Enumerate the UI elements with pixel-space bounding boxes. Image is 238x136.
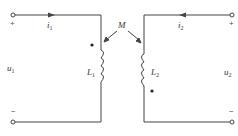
current-i1-arrow-icon bbox=[48, 13, 55, 18]
port2-plus-sign: + bbox=[229, 20, 234, 28]
current-i1-label: i1 bbox=[47, 21, 53, 31]
port1-plus-sign: + bbox=[10, 20, 15, 28]
inductor-L1-label: L1 bbox=[87, 68, 95, 78]
polarity-dot-L2 bbox=[150, 89, 153, 92]
polarity-dot-L1 bbox=[90, 43, 93, 46]
port2-minus-sign: − bbox=[229, 108, 234, 116]
terminal-1-plus bbox=[11, 13, 15, 17]
mutual-inductance-arrows bbox=[104, 31, 141, 43]
port1-minus-sign: − bbox=[11, 108, 16, 116]
coupled-inductor-diagram: + − + − i1 i2 u1 u2 M L1 L2 bbox=[0, 0, 238, 136]
current-i2-label: i2 bbox=[178, 21, 184, 31]
current-i2-arrow-icon bbox=[179, 13, 186, 18]
voltage-u1-label: u1 bbox=[7, 64, 15, 74]
inductor-L2-label: L2 bbox=[151, 68, 159, 78]
terminal-2-minus bbox=[230, 120, 234, 124]
terminal-2-plus bbox=[230, 13, 234, 17]
mutual-inductance-label: M bbox=[118, 21, 126, 30]
inductor-L1-coil bbox=[101, 50, 104, 82]
terminal-1-minus bbox=[11, 120, 15, 124]
voltage-u2-label: u2 bbox=[224, 68, 232, 78]
inductor-L2-coil bbox=[142, 54, 145, 86]
